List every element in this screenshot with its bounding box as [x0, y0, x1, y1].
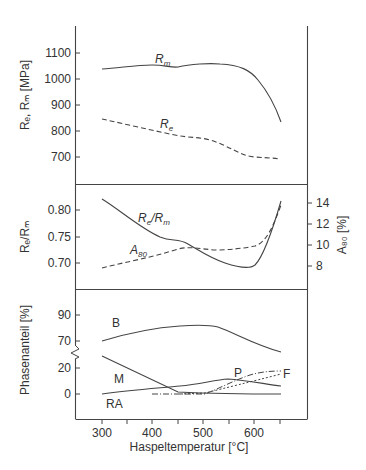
label-ra: RA: [106, 397, 123, 411]
tick-a80-12: 12: [316, 217, 330, 231]
top-y-axis-title: Rₑ, Rₘ [MPa]: [18, 60, 32, 130]
tick-a80-10: 10: [316, 238, 330, 252]
top-panel: 1100 1000 900 800 700 Rₑ, Rₘ [MPa] Rm Re: [18, 46, 281, 164]
middle-panel: 0.80 0.75 0.70 14 12 10 8 Rₑ/Rₘ A₈₀ [%] …: [18, 196, 349, 273]
label-b: B: [112, 316, 120, 330]
bottom-panel: 90 70 20 0 Phasenanteil [%] B M RA P F: [18, 305, 290, 454]
series-ratio-line: [102, 199, 281, 267]
bottom-y-axis-title: Phasenanteil [%]: [18, 305, 32, 395]
tick-900: 900: [51, 98, 71, 112]
series-re-line: [102, 119, 279, 159]
tick-a80-14: 14: [316, 196, 330, 210]
tick-0.80: 0.80: [48, 203, 72, 217]
tick-20: 20: [58, 361, 72, 375]
series-rm-line: [102, 64, 281, 122]
tick-1100: 1100: [45, 46, 71, 60]
series-ra-line: [102, 379, 281, 394]
label-m: M: [114, 372, 124, 386]
tick-1000: 1000: [44, 72, 71, 86]
middle-y2-axis-title: A₈₀ [%]: [335, 216, 349, 255]
series-a80-line: [102, 205, 281, 268]
label-a80: A80: [129, 243, 147, 259]
tick-a80-8: 8: [316, 259, 323, 273]
tick-800: 800: [51, 124, 71, 138]
middle-y-ticks: [75, 203, 312, 266]
series-m-line: [102, 356, 281, 394]
series-b-line: [102, 325, 281, 352]
x-axis-title: Haspeltemperatur [°C]: [130, 440, 249, 454]
xtick-500: 500: [193, 426, 213, 440]
middle-y-axis-title: Rₑ/Rₘ: [18, 221, 32, 253]
xtick-400: 400: [142, 426, 162, 440]
tick-70: 70: [58, 334, 72, 348]
label-re: Re: [160, 117, 174, 133]
tick-0: 0: [64, 387, 71, 401]
label-f: F: [283, 367, 290, 381]
label-p: P: [234, 366, 242, 380]
chart-figure: 1100 1000 900 800 700 Rₑ, Rₘ [MPa] Rm Re…: [0, 0, 366, 470]
tick-700: 700: [51, 150, 71, 164]
label-ratio: Re/Rm: [138, 211, 170, 227]
tick-90: 90: [58, 308, 72, 322]
xtick-600: 600: [244, 426, 264, 440]
tick-0.75: 0.75: [48, 230, 72, 244]
tick-0.70: 0.70: [48, 256, 72, 270]
label-rm: Rm: [155, 52, 171, 68]
xtick-300: 300: [92, 426, 112, 440]
